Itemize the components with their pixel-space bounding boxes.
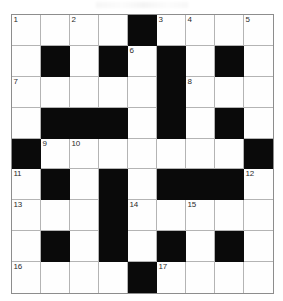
clue-number: 1	[14, 15, 18, 24]
clue-number: 5	[246, 15, 250, 24]
grid-cell-block	[186, 169, 215, 200]
grid-cell-open[interactable]	[215, 15, 244, 46]
grid-cell-block	[244, 139, 273, 170]
grid-cell-open[interactable]	[41, 77, 70, 108]
grid-cell-open[interactable]	[215, 200, 244, 231]
grid-cell-open[interactable]	[70, 231, 99, 262]
grid-cell-open[interactable]	[215, 139, 244, 170]
clue-number: 13	[14, 200, 22, 209]
grid-cell-open[interactable]	[186, 262, 215, 293]
grid-cell-open[interactable]	[12, 108, 41, 139]
grid-cell-block	[128, 262, 157, 293]
grid-cell-open[interactable]: 9	[41, 139, 70, 170]
grid-cell-open[interactable]	[244, 231, 273, 262]
grid-cell-block	[157, 108, 186, 139]
grid-cell-open[interactable]: 11	[12, 169, 41, 200]
grid-cell-block	[70, 108, 99, 139]
clue-number: 17	[159, 262, 167, 271]
grid-cell-open[interactable]: 13	[12, 200, 41, 231]
grid-cell-block	[41, 108, 70, 139]
clue-number: 12	[246, 169, 254, 178]
grid-cell-open[interactable]: 15	[186, 200, 215, 231]
grid-cell-block	[157, 169, 186, 200]
grid-cell-open[interactable]	[12, 46, 41, 77]
grid-cell-block	[41, 46, 70, 77]
grid-cell-open[interactable]	[128, 139, 157, 170]
grid-cell-open[interactable]: 2	[70, 15, 99, 46]
grid-cell-open[interactable]	[41, 15, 70, 46]
grid-cell-open[interactable]	[244, 46, 273, 77]
grid-cell-open[interactable]	[186, 139, 215, 170]
grid-cell-open[interactable]: 16	[12, 262, 41, 293]
clue-number: 6	[130, 46, 134, 55]
grid-cell-open[interactable]	[157, 139, 186, 170]
grid-cell-block	[41, 231, 70, 262]
grid-cell-open[interactable]	[128, 77, 157, 108]
grid-cell-open[interactable]: 3	[157, 15, 186, 46]
clue-number: 3	[159, 15, 163, 24]
clue-number: 7	[14, 77, 18, 86]
grid-cell-open[interactable]	[99, 139, 128, 170]
clue-number: 14	[130, 200, 138, 209]
grid-cell-block	[157, 46, 186, 77]
grid-cell-block	[99, 200, 128, 231]
grid-cell-open[interactable]	[41, 200, 70, 231]
grid-cell-open[interactable]: 8	[186, 77, 215, 108]
grid-cell-block	[128, 15, 157, 46]
grid-cell-open[interactable]	[70, 200, 99, 231]
grid-cell-open[interactable]	[186, 231, 215, 262]
grid-cell-open[interactable]	[215, 262, 244, 293]
grid-cell-block	[157, 77, 186, 108]
grid-cell-open[interactable]	[99, 77, 128, 108]
grid-cell-open[interactable]	[70, 77, 99, 108]
grid-cell-block	[215, 46, 244, 77]
grid-cell-open[interactable]	[157, 200, 186, 231]
grid-cell-open[interactable]	[128, 108, 157, 139]
grid-cell-block	[215, 108, 244, 139]
clue-number: 15	[188, 200, 196, 209]
grid-cell-block	[41, 169, 70, 200]
grid-cell-open[interactable]: 6	[128, 46, 157, 77]
grid-cell-open[interactable]: 10	[70, 139, 99, 170]
grid-cell-open[interactable]	[244, 262, 273, 293]
grid-cell-block	[99, 169, 128, 200]
grid-cell-open[interactable]	[99, 262, 128, 293]
grid-cell-open[interactable]	[128, 169, 157, 200]
clue-number: 9	[43, 139, 47, 148]
grid-cell-open[interactable]: 5	[244, 15, 273, 46]
grid-cell-open[interactable]	[186, 46, 215, 77]
grid-cell-open[interactable]	[99, 15, 128, 46]
clue-number: 11	[14, 169, 22, 178]
grid-cell-open[interactable]: 14	[128, 200, 157, 231]
clue-number: 2	[72, 15, 76, 24]
grid-cell-open[interactable]	[70, 169, 99, 200]
clue-number: 8	[188, 77, 192, 86]
grid-cell-block	[99, 46, 128, 77]
grid-cell-open[interactable]	[244, 77, 273, 108]
grid-cell-open[interactable]	[186, 108, 215, 139]
grid-cell-open[interactable]	[41, 262, 70, 293]
clue-number: 4	[188, 15, 192, 24]
grid-cell-block	[99, 231, 128, 262]
grid-cell-open[interactable]	[70, 46, 99, 77]
grid-cell-open[interactable]	[244, 108, 273, 139]
grid-cell-open[interactable]	[12, 231, 41, 262]
scan-artifact	[96, 2, 188, 8]
grid-cell-block	[215, 169, 244, 200]
crossword-puzzle: 1234567891011121314151617	[0, 0, 283, 301]
grid-cell-block	[12, 139, 41, 170]
clue-number: 10	[72, 139, 80, 148]
grid-cell-open[interactable]: 17	[157, 262, 186, 293]
grid-cell-open[interactable]	[244, 200, 273, 231]
clue-number: 16	[14, 262, 22, 271]
grid-cell-open[interactable]	[128, 231, 157, 262]
grid-cell-open[interactable]: 4	[186, 15, 215, 46]
grid-cell-open[interactable]: 7	[12, 77, 41, 108]
grid-cell-block	[99, 108, 128, 139]
grid-cell-open[interactable]	[215, 77, 244, 108]
grid-cell-open[interactable]: 12	[244, 169, 273, 200]
grid-cell-open[interactable]: 1	[12, 15, 41, 46]
grid-cell-block	[215, 231, 244, 262]
crossword-grid[interactable]: 1234567891011121314151617	[11, 14, 274, 294]
grid-cell-open[interactable]	[70, 262, 99, 293]
